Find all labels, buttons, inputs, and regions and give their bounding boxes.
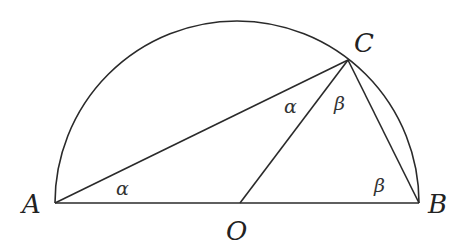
angle-label-alpha-a: α xyxy=(116,177,129,199)
angle-label-alpha-c: α xyxy=(284,95,297,117)
point-label-c: C xyxy=(354,28,374,58)
segment-ac xyxy=(55,60,348,203)
semicircle-diagram: A B O C α α β β xyxy=(0,0,467,250)
angle-label-beta-b: β xyxy=(373,174,385,196)
point-label-o: O xyxy=(226,216,247,246)
point-label-b: B xyxy=(427,189,447,219)
segment-oc xyxy=(240,60,348,203)
angle-label-beta-c: β xyxy=(333,92,345,114)
point-label-a: A xyxy=(20,189,41,219)
